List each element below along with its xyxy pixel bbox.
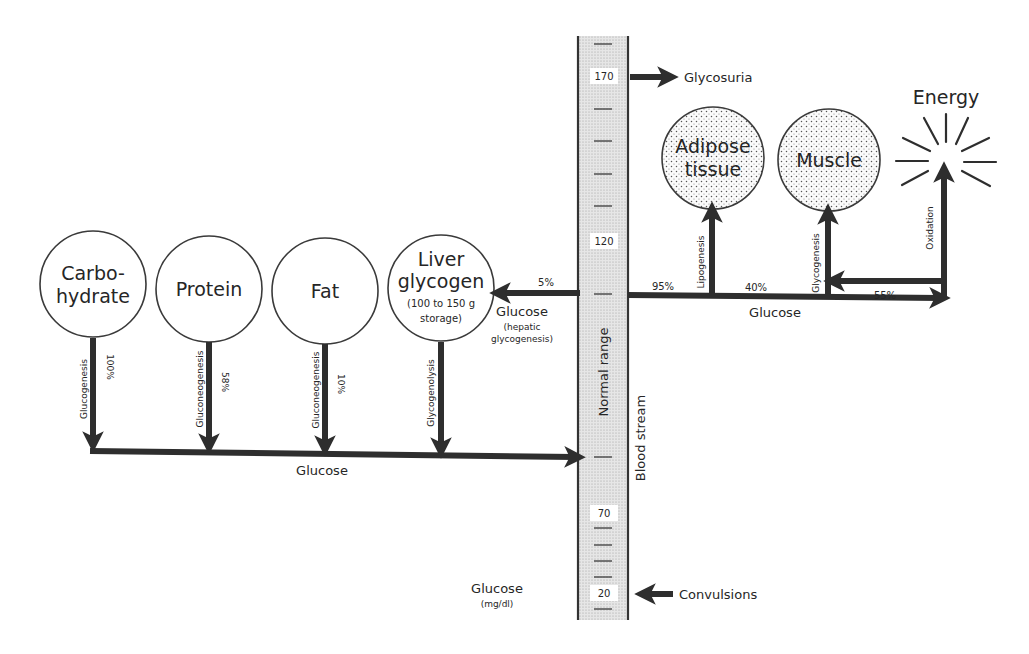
svg-text:Muscle: Muscle — [796, 149, 862, 171]
blood-stream-label: Blood stream — [633, 395, 648, 481]
tick-20: 20 — [598, 588, 611, 599]
axis-units: (mg/dl) — [481, 599, 514, 609]
svg-text:Fat: Fat — [311, 280, 339, 302]
percent-carbohydrate: 100% — [105, 354, 115, 380]
energy-label: Energy — [913, 86, 980, 108]
tick-120: 120 — [594, 236, 613, 247]
normal-range-label: Normal range — [596, 328, 611, 417]
source-glucose-line — [90, 451, 575, 457]
tick-170: 170 — [594, 71, 613, 82]
process-fat: Gluconeogenesis — [311, 351, 321, 428]
tick-70: 70 — [598, 508, 611, 519]
svg-text:storage): storage) — [420, 313, 462, 324]
svg-text:glycogen: glycogen — [398, 270, 484, 292]
svg-text:Carbo-: Carbo- — [61, 262, 125, 284]
percent-energy: 55% — [874, 290, 896, 301]
svg-text:(hepatic: (hepatic — [504, 322, 541, 332]
percent-protein: 58% — [220, 372, 230, 392]
node-protein: Protein — [156, 236, 262, 342]
convulsions-label: Convulsions — [679, 587, 757, 602]
blood-stream-column: 170 120 70 20 Normal range Blood stream — [578, 36, 648, 620]
svg-text:tissue: tissue — [685, 158, 741, 180]
svg-text:Protein: Protein — [176, 278, 243, 300]
svg-text:Liver: Liver — [418, 248, 465, 270]
node-carbohydrate: Carbo- hydrate — [40, 231, 146, 337]
glycosuria-label: Glycosuria — [684, 70, 752, 85]
process-glucogenesis: Glucogenesis — [79, 359, 89, 419]
hepatic-glucose-label: Glucose — [496, 304, 548, 319]
sink-glucose-label: Glucose — [749, 305, 801, 320]
process-protein: Gluconeogenesis — [195, 350, 205, 427]
svg-text:hydrate: hydrate — [56, 285, 130, 307]
svg-text:(100 to 150 g: (100 to 150 g — [407, 298, 475, 309]
process-liver: Glycogenolysis — [426, 359, 436, 427]
node-muscle: Muscle — [778, 109, 880, 211]
node-fat: Fat — [272, 238, 378, 344]
percent-adipose: 95% — [652, 281, 674, 292]
process-glycogenesis: Glycogenesis — [811, 233, 821, 293]
glucose-diagram: 170 120 70 20 Normal range Blood stream … — [0, 0, 1029, 654]
svg-text:glycogenesis): glycogenesis) — [491, 334, 553, 344]
hepatic-percent: 5% — [538, 277, 554, 288]
percent-muscle: 40% — [745, 282, 767, 293]
node-adipose: Adipose tissue — [662, 107, 764, 209]
process-oxidation: Oxidation — [925, 206, 935, 249]
process-lipogenesis: Lipogenesis — [696, 235, 706, 288]
source-glucose-label: Glucose — [296, 463, 348, 478]
percent-fat: 10% — [336, 374, 346, 394]
node-liver-glycogen: Liver glycogen (100 to 150 g storage) — [388, 235, 494, 341]
axis-title: Glucose — [471, 581, 523, 596]
svg-text:Adipose: Adipose — [675, 135, 750, 157]
